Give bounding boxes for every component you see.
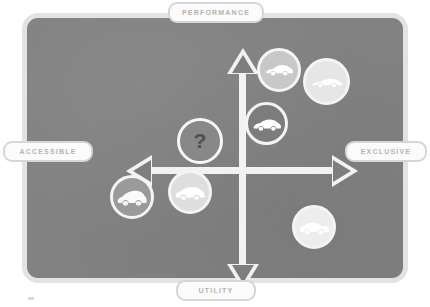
positioning-matrix-canvas: ? [0, 0, 430, 307]
node-minivan[interactable] [168, 170, 212, 214]
pickup-car-icon [298, 211, 331, 244]
arrow-right-fill [333, 160, 351, 182]
horizontal-axis-line [139, 167, 346, 174]
node-sports-coupe[interactable] [257, 48, 301, 92]
axis-label-exclusive: EXCLUSIVE [345, 141, 427, 162]
node-suv[interactable] [110, 175, 154, 219]
arrow-up-fill [232, 55, 254, 73]
axis-label-accessible: ACCESSIBLE [3, 141, 93, 162]
van-car-icon [174, 176, 207, 209]
node-roadster[interactable] [303, 58, 350, 105]
axis-label-performance: PERFORMANCE [168, 2, 264, 23]
node-pickup[interactable] [292, 205, 336, 249]
sedan-car-icon [251, 108, 283, 140]
node-unknown[interactable]: ? [177, 118, 223, 164]
suv-car-icon [116, 181, 149, 214]
sports-car-icon [309, 64, 344, 99]
question-mark-icon: ? [194, 130, 207, 151]
sports-car-icon [263, 54, 296, 87]
axis-label-utility: UTILITY [176, 280, 256, 301]
node-sedan[interactable] [245, 102, 288, 145]
scan-artifact-mark [28, 297, 34, 300]
